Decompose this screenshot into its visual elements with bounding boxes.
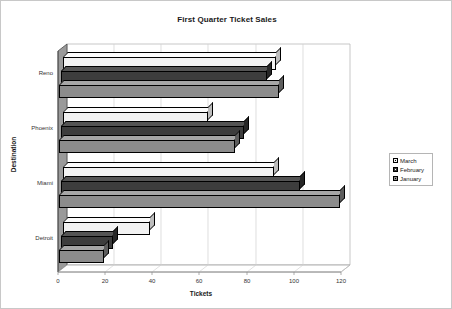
legend-label-january: January — [400, 176, 421, 182]
legend-swatch-february-icon — [393, 167, 398, 172]
legend-item-february[interactable]: February — [393, 165, 430, 174]
plot-floor — [58, 265, 350, 272]
x-tick-100: 100 — [282, 278, 306, 284]
bar-front-face — [59, 250, 104, 263]
bar-front-face — [59, 85, 279, 98]
bar-phoenix-january — [59, 140, 235, 153]
legend-item-january[interactable]: January — [393, 174, 430, 183]
x-tick-80: 80 — [235, 278, 259, 284]
x-tick-0: 0 — [46, 278, 70, 284]
y-category-reno: Reno — [7, 70, 53, 76]
legend-item-march[interactable]: March — [393, 156, 430, 165]
plot-area: 0 20 40 60 80 100 120 Reno Phoenix Miami… — [1, 1, 452, 309]
bar-miami-january — [59, 195, 340, 208]
bar-reno-january — [59, 85, 279, 98]
y-category-detroit: Detroit — [7, 235, 53, 241]
x-tick-120: 120 — [329, 278, 353, 284]
bar-front-face — [59, 140, 235, 153]
y-axis-title: Destination — [10, 125, 17, 185]
legend-label-february: February — [400, 167, 424, 173]
x-tick-20: 20 — [93, 278, 117, 284]
bar-front-face — [59, 195, 340, 208]
x-axis-ticks — [58, 272, 341, 275]
chart-legend[interactable]: March February January — [389, 153, 433, 186]
x-axis-title: Tickets — [1, 290, 401, 297]
legend-swatch-march-icon — [393, 158, 398, 163]
x-tick-40: 40 — [140, 278, 164, 284]
chart-container: First Quarter Ticket Sales — [0, 0, 452, 309]
legend-label-march: March — [400, 158, 417, 164]
x-tick-60: 60 — [187, 278, 211, 284]
bar-detroit-january — [59, 250, 104, 263]
legend-swatch-january-icon — [393, 176, 398, 181]
